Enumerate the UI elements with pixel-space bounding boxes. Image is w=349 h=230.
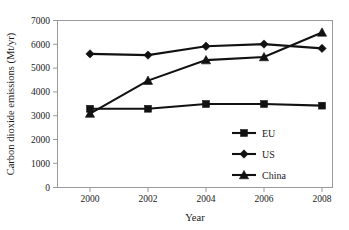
data-point-eu-2008 (319, 102, 326, 109)
chart-background (0, 0, 349, 230)
y-tick-label: 5000 (31, 63, 50, 73)
legend-label-us: US (262, 149, 275, 160)
x-axis-title: Year (185, 212, 205, 223)
y-axis-title: Carbon dioxide emissions (Mt/yr) (5, 32, 17, 175)
x-tick-label: 2000 (81, 194, 100, 204)
legend-label-china: China (262, 170, 286, 181)
x-tick-label: 2006 (255, 194, 274, 204)
data-point-eu-2004 (203, 101, 210, 108)
y-tick-label: 6000 (31, 40, 50, 50)
y-tick-label: 1000 (31, 159, 50, 169)
legend-marker-square-icon (241, 130, 248, 137)
y-tick-label: 2000 (31, 135, 50, 145)
data-point-eu-2002 (145, 105, 152, 112)
x-tick-label: 2004 (197, 194, 216, 204)
chart-figure: 7000 6000 5000 4000 3000 2000 1000 0 200… (0, 0, 349, 230)
x-tick-label: 2008 (313, 194, 332, 204)
y-tick-label: 7000 (31, 16, 50, 26)
y-tick-label: 0 (45, 183, 50, 193)
x-tick-label: 2002 (139, 194, 158, 204)
line-chart: 7000 6000 5000 4000 3000 2000 1000 0 200… (0, 0, 349, 230)
data-point-eu-2006 (261, 101, 268, 108)
y-tick-label: 3000 (31, 111, 50, 121)
y-tick-label: 4000 (31, 87, 50, 97)
legend-label-eu: EU (262, 128, 276, 139)
